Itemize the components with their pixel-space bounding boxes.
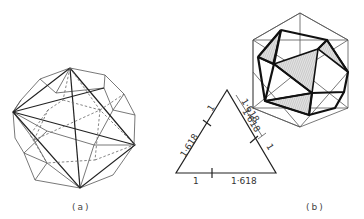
label-right-1: 1 xyxy=(264,142,276,152)
figure-canvas: (a) 1 1·618 1·618 1 1 1·618 xyxy=(0,0,364,219)
caption-b: (b) xyxy=(306,202,325,212)
hidden-edges xyxy=(34,68,70,140)
icosahedron-b xyxy=(253,13,348,127)
shaded-face xyxy=(274,49,318,93)
label-base-1: 1 xyxy=(193,176,199,186)
polyhedron-a xyxy=(13,68,135,188)
label-base-1618: 1·618 xyxy=(231,176,257,186)
label-left-1618: 1·618 xyxy=(178,132,200,159)
label-left-1: 1 xyxy=(205,103,217,113)
diagonal-tick xyxy=(258,133,266,139)
caption-a: (a) xyxy=(72,202,91,212)
tick-left xyxy=(203,120,211,126)
